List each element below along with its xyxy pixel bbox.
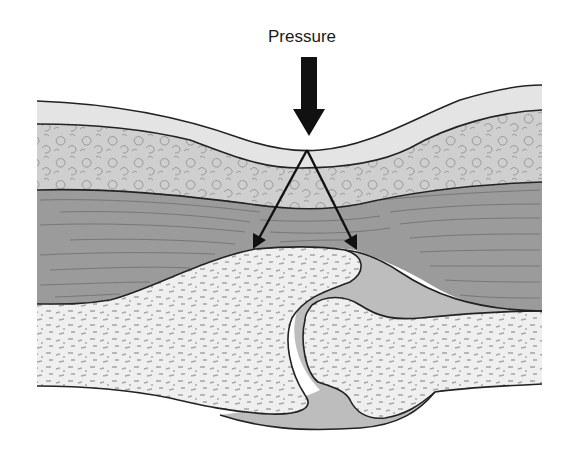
pressure-diagram: Pressure [0,0,571,450]
pressure-label: Pressure [268,27,336,46]
pressure-arrow-icon [293,57,325,136]
